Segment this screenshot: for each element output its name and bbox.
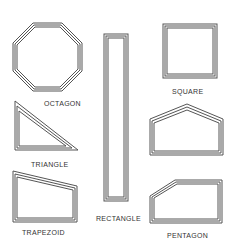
octagon-shape	[13, 23, 82, 91]
square-shape	[163, 24, 217, 78]
trapezoid-shape	[13, 171, 77, 222]
triangle-shape	[15, 101, 78, 150]
house-pentagon-shape	[150, 104, 223, 155]
octagon-label: OCTAGON	[44, 100, 81, 107]
triangle-label: TRIANGLE	[31, 161, 68, 168]
trapezoid-label: TRAPEZOID	[22, 229, 65, 236]
window-shapes-diagram: OCTAGON RECTANGLE SQUARE TRIANGLE TRAPEZ…	[0, 0, 236, 247]
pentagon-label: PENTAGON	[167, 232, 208, 239]
rectangle-shape	[104, 34, 128, 201]
square-label: SQUARE	[172, 88, 203, 96]
rectangle-label: RECTANGLE	[96, 215, 141, 222]
pentagon-shape	[150, 180, 222, 223]
